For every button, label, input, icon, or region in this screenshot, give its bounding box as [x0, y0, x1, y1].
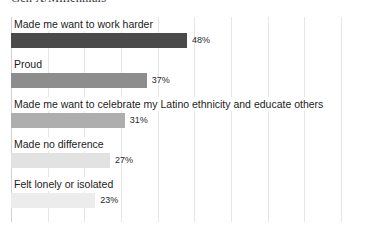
chart-title: Gen X/Millennials [11, 0, 106, 6]
bar-fill [11, 153, 110, 168]
bar [11, 193, 95, 208]
bar [11, 153, 110, 168]
bar-fill [11, 193, 95, 208]
bar-row: Made no difference27% [11, 137, 363, 177]
bar-fill [11, 113, 125, 128]
bar-chart: Gen X/Millennials Made me want to work h… [0, 0, 380, 231]
bar-value-label: 48% [192, 34, 210, 47]
bar-category-label: Proud [13, 57, 43, 71]
bar-value-label: 37% [152, 74, 170, 87]
bar-category-label: Made me want to work harder [13, 17, 154, 31]
bar [11, 73, 147, 88]
bar-category-label: Made me want to celebrate my Latino ethn… [13, 97, 324, 111]
bar-row: Proud37% [11, 57, 363, 97]
bar-value-label: 23% [100, 194, 118, 207]
bar-value-label: 27% [115, 154, 133, 167]
plot-area: Made me want to work harder48%Proud37%Ma… [11, 17, 363, 222]
bar-row: Made me want to work harder48% [11, 17, 363, 57]
bar-row: Felt lonely or isolated23% [11, 177, 363, 217]
bar [11, 113, 125, 128]
bar-category-label: Felt lonely or isolated [13, 177, 114, 191]
bar-row: Made me want to celebrate my Latino ethn… [11, 97, 363, 137]
bar-value-label: 31% [130, 114, 148, 127]
bar-fill [11, 73, 147, 88]
bar-fill [11, 33, 187, 48]
bar-category-label: Made no difference [13, 137, 105, 151]
bar [11, 33, 187, 48]
